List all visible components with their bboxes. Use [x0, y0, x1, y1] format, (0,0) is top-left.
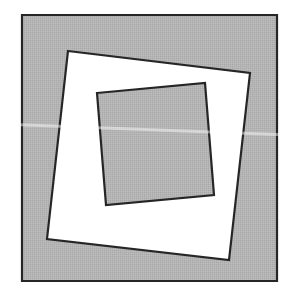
inner-gray-square	[97, 83, 214, 205]
nested-squares-figure	[0, 0, 290, 302]
nested-squares-svg	[0, 0, 290, 302]
